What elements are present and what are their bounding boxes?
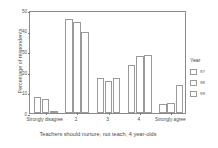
- y-axis-tick-mark: [28, 53, 30, 54]
- x-axis-tick-label: Strongly disagree: [26, 117, 62, 122]
- legend-entries: 979899: [190, 66, 218, 99]
- legend-swatch-icon: [190, 80, 197, 86]
- x-axis-tick-mark: [171, 113, 172, 115]
- x-axis-tick-mark: [109, 113, 110, 115]
- bar-group: [65, 12, 89, 113]
- y-axis-tick-mark: [28, 115, 30, 116]
- y-axis-tick-label: 20: [22, 71, 27, 76]
- bar-group: [159, 12, 183, 113]
- x-axis-tick-mark: [140, 113, 141, 115]
- legend-item-label: 99: [200, 91, 205, 96]
- x-axis-tick-label: 2: [75, 117, 78, 122]
- bar: [144, 55, 152, 113]
- y-axis-tick-label: 30: [22, 50, 27, 55]
- bar: [97, 78, 105, 113]
- bar-group: [128, 12, 152, 113]
- legend: Year 979899: [190, 57, 218, 99]
- x-axis-tick-label: 4: [138, 117, 141, 122]
- legend-item-label: 98: [200, 80, 205, 85]
- legend-item[interactable]: 98: [190, 77, 218, 88]
- bar: [50, 111, 58, 113]
- bar: [81, 32, 89, 113]
- x-axis-tick-label: Strongly agree: [155, 117, 186, 122]
- bar-chart-figure: Percentage of respondents 01020304050 St…: [0, 0, 218, 148]
- bar: [167, 103, 175, 113]
- legend-swatch-icon: [190, 91, 197, 97]
- y-axis-tick-mark: [28, 33, 30, 34]
- plot-area: 01020304050: [30, 12, 185, 113]
- y-axis-tick-label: 50: [22, 9, 27, 14]
- legend-title: Year: [190, 57, 218, 63]
- y-axis-tick-mark: [28, 74, 30, 75]
- bar: [34, 97, 42, 113]
- bar: [128, 65, 136, 113]
- legend-item[interactable]: 97: [190, 66, 218, 77]
- y-axis-tick-label: 40: [22, 29, 27, 34]
- bar-group: [34, 12, 58, 113]
- y-axis-tick-mark: [28, 12, 30, 13]
- bar: [105, 81, 113, 113]
- legend-item-label: 97: [200, 69, 205, 74]
- bar: [42, 99, 50, 113]
- bar: [159, 104, 167, 113]
- bar: [65, 19, 73, 113]
- bar: [73, 22, 81, 113]
- x-axis-tick-label: 3: [106, 117, 109, 122]
- x-axis-tick-mark: [77, 113, 78, 115]
- bar-group: [97, 12, 121, 113]
- bar: [113, 78, 121, 113]
- x-axis-title: Teachers should nurture, not teach, 4 ye…: [0, 131, 196, 137]
- x-axis-tick-mark: [46, 113, 47, 115]
- plot-frame: 01020304050: [29, 11, 186, 114]
- y-axis-tick-mark: [28, 94, 30, 95]
- legend-swatch-icon: [190, 69, 197, 75]
- y-axis-tick-label: 10: [22, 91, 27, 96]
- bar: [136, 56, 144, 113]
- bar: [176, 85, 184, 113]
- legend-item[interactable]: 99: [190, 88, 218, 99]
